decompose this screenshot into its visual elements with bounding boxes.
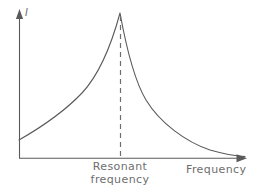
resonance-curve-figure: I Frequency Resonant frequency <box>0 0 267 193</box>
resonant-frequency-label: Resonant frequency <box>79 161 161 186</box>
resonance-curve <box>19 13 245 157</box>
resonant-frequency-label-line2: frequency <box>79 174 161 187</box>
x-axis-label: Frequency <box>186 163 246 176</box>
y-axis-label: I <box>25 7 28 18</box>
resonant-frequency-label-line1: Resonant <box>79 161 161 174</box>
y-axis-arrow-icon <box>16 9 23 19</box>
